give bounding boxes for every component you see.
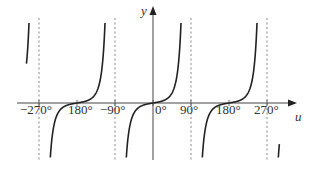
u-axis-label: u xyxy=(295,109,302,124)
tick-label-90: 90° xyxy=(180,102,198,117)
tick-label-neg270: −270° xyxy=(20,102,52,117)
curve-branch xyxy=(50,23,105,158)
curve-branch xyxy=(202,23,257,158)
y-axis-arrow-icon xyxy=(150,6,157,15)
curve-branch xyxy=(126,23,181,158)
tangent-graph: y u −270° 180° −90° 0° 90° 180° 270° xyxy=(0,0,310,171)
curve-branch xyxy=(278,144,279,157)
tick-label-0: 0° xyxy=(155,102,167,117)
tick-label-180: 180° xyxy=(216,102,241,117)
tick-label-neg180: 180° xyxy=(68,102,93,117)
u-axis-arrow-icon xyxy=(288,100,297,107)
y-axis-label: y xyxy=(139,3,147,18)
tick-label-270: 270° xyxy=(254,102,279,117)
tick-label-neg90: −90° xyxy=(100,102,126,117)
curve-branch xyxy=(26,23,29,64)
